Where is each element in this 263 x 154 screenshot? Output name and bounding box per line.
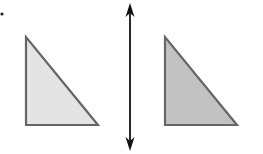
marker-dot: [0, 12, 3, 15]
reflection-diagram: [0, 0, 263, 154]
reflected-triangle: [165, 37, 237, 125]
original-triangle: [26, 37, 98, 125]
